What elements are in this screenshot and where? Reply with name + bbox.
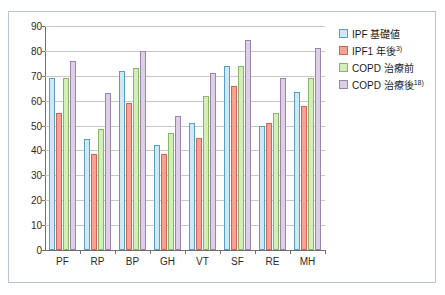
x-tick-mark	[255, 250, 256, 254]
bar-pf-series-2	[63, 78, 69, 250]
x-label-gh: GH	[150, 256, 185, 267]
y-axis-tick-labels: 0102030405060708090	[9, 26, 42, 251]
bar-mh-series-3	[315, 48, 321, 250]
bar-pf-series-3	[70, 61, 76, 250]
bar-rp-series-1	[91, 154, 97, 250]
bar-groups	[45, 26, 325, 250]
y-tick-label: 70	[12, 70, 42, 81]
x-axis-labels: PFRPBPGHVTSFREMH	[45, 256, 325, 267]
bar-vt-series-1	[196, 138, 202, 250]
bar-group-re	[255, 26, 290, 250]
y-tick-label: 30	[12, 170, 42, 181]
legend-item-0[interactable]: IPF 基礎値	[339, 26, 433, 41]
bar-gh-series-0	[154, 145, 160, 250]
bar-vt-series-3	[210, 73, 216, 250]
bar-rp-series-3	[105, 93, 111, 250]
y-tick-label: 60	[12, 95, 42, 106]
bar-pf-series-0	[49, 78, 55, 250]
legend: IPF 基礎値IPF1 年後3)COPD 治療前COPD 治療後18)	[339, 26, 433, 94]
bar-re-series-0	[259, 126, 265, 250]
chart-screenshot: 0102030405060708090 PFRPBPGHVTSFREMH IPF…	[0, 0, 445, 295]
bar-vt-series-2	[203, 96, 209, 250]
legend-swatch-icon-0	[339, 29, 348, 38]
legend-swatch-icon-2	[339, 63, 348, 72]
x-tick-mark	[150, 250, 151, 254]
bar-sf-series-2	[238, 66, 244, 250]
y-tick-label: 20	[12, 195, 42, 206]
bar-pf-series-1	[56, 113, 62, 250]
bar-re-series-2	[273, 113, 279, 250]
x-tick-mark	[290, 250, 291, 254]
bar-sf-series-3	[245, 40, 251, 250]
bar-bp-series-0	[119, 71, 125, 250]
bar-bp-series-1	[126, 103, 132, 250]
bar-group-sf	[220, 26, 255, 250]
x-label-vt: VT	[185, 256, 220, 267]
x-label-sf: SF	[220, 256, 255, 267]
y-tick-label: 50	[12, 120, 42, 131]
legend-label-2: COPD 治療前	[352, 60, 414, 75]
bar-bp-series-2	[133, 68, 139, 250]
x-tick-mark	[80, 250, 81, 254]
bar-sf-series-1	[231, 86, 237, 250]
legend-item-1[interactable]: IPF1 年後3)	[339, 43, 433, 58]
legend-label-0: IPF 基礎値	[352, 26, 400, 41]
bar-group-vt	[185, 26, 220, 250]
bar-sf-series-0	[224, 66, 230, 250]
plot-area	[45, 26, 325, 250]
x-tick-mark	[325, 250, 326, 254]
bar-re-series-3	[280, 78, 286, 250]
legend-label-1: IPF1 年後3)	[352, 43, 402, 58]
y-tick-label: 10	[12, 220, 42, 231]
x-tick-mark	[220, 250, 221, 254]
x-label-rp: RP	[80, 256, 115, 267]
bar-bp-series-3	[140, 51, 146, 250]
bar-re-series-1	[266, 123, 272, 250]
bar-gh-series-3	[175, 116, 181, 250]
bar-rp-series-0	[84, 139, 90, 250]
bar-group-bp	[115, 26, 150, 250]
bar-group-gh	[150, 26, 185, 250]
bar-gh-series-2	[168, 133, 174, 250]
bar-group-pf	[45, 26, 80, 250]
x-label-bp: BP	[115, 256, 150, 267]
y-tick-label: 90	[12, 21, 42, 32]
legend-swatch-icon-3	[339, 80, 348, 89]
top-cropped-text-strip	[0, 0, 445, 9]
bar-gh-series-1	[161, 154, 167, 250]
legend-item-3[interactable]: COPD 治療後18)	[339, 77, 433, 92]
x-label-mh: MH	[290, 256, 325, 267]
legend-item-2[interactable]: COPD 治療前	[339, 60, 433, 75]
chart-frame: 0102030405060708090 PFRPBPGHVTSFREMH IPF…	[8, 11, 436, 283]
bar-mh-series-0	[294, 92, 300, 250]
bar-mh-series-2	[308, 78, 314, 250]
y-tick-label: 40	[12, 145, 42, 156]
x-tick-mark	[185, 250, 186, 254]
bar-mh-series-1	[301, 106, 307, 250]
legend-swatch-icon-1	[339, 46, 348, 55]
x-label-pf: PF	[45, 256, 80, 267]
bar-group-mh	[290, 26, 325, 250]
x-tick-mark	[115, 250, 116, 254]
bar-vt-series-0	[189, 123, 195, 250]
x-label-re: RE	[255, 256, 290, 267]
legend-label-3: COPD 治療後18)	[352, 77, 424, 92]
bar-group-rp	[80, 26, 115, 250]
y-tick-label: 80	[12, 45, 42, 56]
bar-rp-series-2	[98, 129, 104, 250]
y-tick-label: 0	[12, 245, 42, 256]
